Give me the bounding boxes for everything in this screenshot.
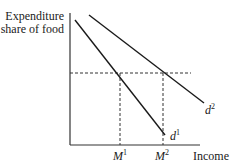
- x-tick-m2: M2: [154, 148, 169, 163]
- y-axis-label-line1: Expenditure: [5, 9, 64, 23]
- curve-d1: [75, 20, 165, 135]
- x-tick-m1: M1: [112, 148, 127, 163]
- curve-d1-label: d1: [170, 128, 180, 143]
- curve-d2-label: d2: [205, 102, 215, 117]
- y-axis-label-line2: share of food: [1, 22, 64, 36]
- x-axis-label: Income: [193, 149, 229, 163]
- engel-curve-diagram: Expenditure share of food d1 d2 M1 M2 In…: [0, 0, 234, 165]
